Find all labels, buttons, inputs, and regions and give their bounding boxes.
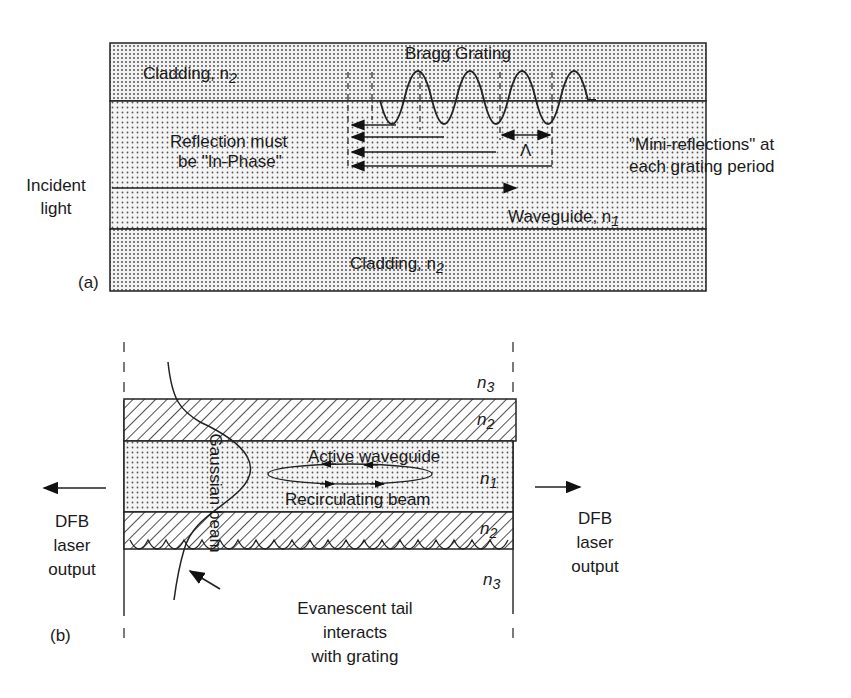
right-output-line2: laser xyxy=(555,531,635,555)
evanescent-label: Evanescent tail interacts with grating xyxy=(255,597,455,669)
n2-top-sub: 2 xyxy=(486,416,494,432)
evanescent-line3: with grating xyxy=(255,645,455,669)
n2-bottom-sub: 2 xyxy=(489,525,497,541)
reflection-label-line1: Reflection must xyxy=(170,131,287,152)
bragg-grating-label: Bragg Grating xyxy=(405,43,511,64)
right-output-line1: DFB xyxy=(555,507,635,531)
waveguide-sub: 1 xyxy=(611,213,619,229)
n3-top-sub: 3 xyxy=(486,379,494,395)
right-output-line3: output xyxy=(555,555,635,579)
right-output-label: DFB laser output xyxy=(555,507,635,579)
n3-bottom-sub: 3 xyxy=(492,576,500,592)
n2-bottom-label: n2 xyxy=(480,518,497,544)
gaussian-beam-label: Gaussian beam xyxy=(205,434,226,544)
evanescent-line1: Evanescent tail xyxy=(255,597,455,621)
n3-top-label: n3 xyxy=(477,372,494,398)
n1-label: n1 xyxy=(480,468,497,494)
dfb-diagram-graphics xyxy=(0,0,851,698)
cladding-top-text: Cladding, n xyxy=(143,64,229,83)
panel-b-tag: (b) xyxy=(50,625,71,646)
evanescent-line2: interacts xyxy=(255,621,455,645)
incident-light-line1: Incident xyxy=(14,175,98,196)
waveguide-label: Waveguide, n1 xyxy=(508,206,619,232)
recirculating-beam-label: Recirculating beam xyxy=(285,489,431,510)
mini-reflections-line1: "Mini-reflections" at xyxy=(629,134,774,155)
n2-top-label: n2 xyxy=(477,409,494,435)
cladding-top-label: Cladding, n2 xyxy=(143,63,237,89)
cladding-bottom-label: Cladding, n2 xyxy=(350,253,444,279)
reflection-label-line2: be "In-Phase" xyxy=(178,151,282,172)
left-output-line1: DFB xyxy=(34,510,110,534)
left-output-label: DFB laser output xyxy=(34,510,110,582)
cladding-bottom-text: Cladding, n xyxy=(350,254,436,273)
left-output-line2: laser xyxy=(34,534,110,558)
active-waveguide-label: Active waveguide xyxy=(308,446,440,467)
cladding-top-sub: 2 xyxy=(229,70,237,86)
n3-bottom-label: n3 xyxy=(483,569,500,595)
waveguide-text: Waveguide, n xyxy=(508,207,611,226)
cladding-bottom-sub: 2 xyxy=(436,260,444,276)
mini-reflections-line2: each grating period xyxy=(629,156,775,177)
incident-light-line2: light xyxy=(14,198,98,219)
panel-a-tag: (a) xyxy=(78,272,99,293)
left-output-line3: output xyxy=(34,558,110,582)
period-symbol: Λ xyxy=(520,140,531,161)
n1-sub: 1 xyxy=(489,475,497,491)
